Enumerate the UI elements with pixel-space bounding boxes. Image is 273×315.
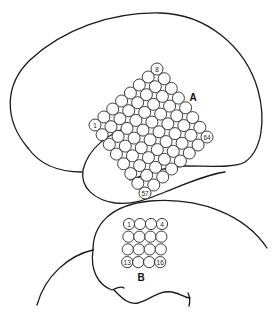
electrode-number-label: 1 — [93, 122, 97, 129]
electrode-grid-diagram: 185764 A 141316 B — [0, 0, 273, 315]
electrode-number-label: 1 — [127, 221, 131, 228]
panel-b-base-contour — [114, 290, 190, 303]
electrode-b-14 — [133, 257, 144, 268]
electrode-b-11 — [144, 244, 155, 255]
panel-a-label: A — [189, 92, 196, 103]
panel-b-label: B — [137, 272, 144, 283]
electrode-number-label: 64 — [203, 134, 211, 141]
electrode-b-7 — [145, 231, 156, 242]
electrode-b-12 — [155, 244, 166, 255]
panel-a-electrode-grid: 185764 — [89, 63, 213, 199]
panel-b-electrode-grid: 141316 — [122, 218, 168, 267]
electrode-b-9 — [122, 244, 133, 255]
panel-b-tick — [188, 293, 190, 306]
electrode-b-10 — [133, 244, 144, 255]
panel-b-lower-left-curve — [37, 250, 93, 305]
electrode-number-label: 57 — [141, 190, 149, 197]
electrode-number-label: 8 — [155, 66, 159, 73]
frontal-lower-edge — [28, 148, 82, 172]
electrode-b-6 — [134, 231, 145, 242]
electrode-b-2 — [134, 218, 145, 229]
electrode-b-3 — [145, 218, 156, 229]
electrode-b-5 — [123, 231, 134, 242]
panel-b-upper-contour — [93, 200, 267, 250]
electrode-b-15 — [144, 257, 155, 268]
panel-b-front-contour — [92, 250, 124, 290]
electrode-b-8 — [156, 231, 167, 242]
electrode-number-label: 4 — [160, 221, 164, 228]
electrode-number-label: 16 — [157, 259, 165, 266]
electrode-number-label: 13 — [124, 259, 132, 266]
